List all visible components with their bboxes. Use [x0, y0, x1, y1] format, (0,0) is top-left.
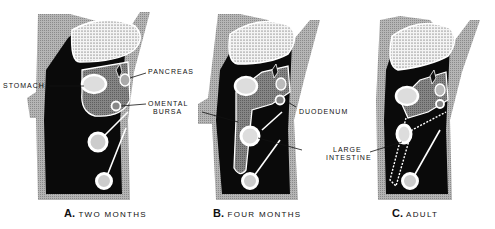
label-large-intestine-2: INTESTINE — [326, 154, 372, 162]
stomach — [396, 87, 418, 105]
duodenum — [276, 96, 285, 105]
caption-b: B. FOUR MONTHS — [213, 207, 301, 219]
intestine-loop — [243, 174, 258, 189]
label-duodenum: DUODENUM — [299, 108, 348, 116]
label-large-intestine-1: LARGE — [333, 146, 362, 154]
intestine-loop — [403, 174, 418, 189]
caption-a-letter: A. — [64, 207, 75, 219]
intestine-loop — [97, 174, 112, 189]
label-stomach: STOMACH — [3, 82, 45, 90]
label-omental-bursa-1: OMENTAL — [148, 100, 188, 108]
intestine-loop — [89, 133, 107, 151]
panel-b-four-months — [198, 14, 320, 200]
stomach — [82, 75, 106, 93]
caption-a-text: TWO MONTHS — [78, 210, 147, 219]
caption-a: A. TWO MONTHS — [64, 207, 147, 219]
caption-b-text: FOUR MONTHS — [228, 210, 302, 219]
pancreas — [120, 74, 130, 86]
duodenum — [436, 100, 444, 108]
label-omental-bursa-2: BURSA — [153, 108, 182, 116]
caption-b-letter: B. — [213, 207, 224, 219]
caption-c-letter: C. — [392, 207, 403, 219]
duodenum — [112, 102, 121, 111]
pancreas — [435, 84, 445, 96]
label-pancreas: PANCREAS — [148, 68, 194, 76]
panel-a-two-months — [27, 12, 150, 200]
panel-c-adult — [370, 16, 480, 200]
caption-c: C. ADULT — [392, 207, 438, 219]
diagram-canvas — [0, 0, 495, 229]
large-intestine — [241, 127, 259, 145]
caption-c-text: ADULT — [406, 210, 438, 219]
stomach — [235, 77, 257, 95]
large-intestine — [397, 125, 411, 143]
pancreas — [276, 78, 286, 90]
